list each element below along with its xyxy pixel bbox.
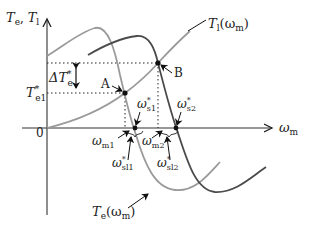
point-ws2 [174, 126, 179, 131]
point-b [155, 60, 160, 65]
wm2-label: ωm2 [142, 134, 164, 150]
torque-speed-diagram: Te, Tl ωm 0 ΔT*e T*e1 A B Tl(ωm) Te(ωm) … [0, 0, 310, 241]
wsl2-label: ω*sl2 [157, 155, 179, 172]
point-a-label: A [100, 77, 110, 91]
y-axis-label: Te, Tl [6, 10, 39, 27]
x-axis-label: ωm [279, 120, 299, 137]
wsl1-label: ω*sl1 [112, 155, 134, 172]
ws1-label: ω*s1 [137, 96, 156, 113]
origin-label: 0 [36, 126, 44, 140]
ws2-label: ω*s2 [177, 96, 196, 113]
point-b-label: B [174, 66, 183, 80]
wm1-label: ωm1 [92, 134, 114, 150]
slip-brace-2 [159, 131, 178, 137]
torque-curve-label: Te(ωm) [92, 204, 135, 221]
te1-label: T*e1 [26, 84, 46, 103]
delta-te-label: ΔT*e [48, 69, 73, 88]
point-ws1 [133, 126, 138, 131]
load-curve-label: Tl(ωm) [208, 16, 249, 33]
point-a [122, 90, 127, 95]
pointer-arrows [112, 20, 206, 208]
